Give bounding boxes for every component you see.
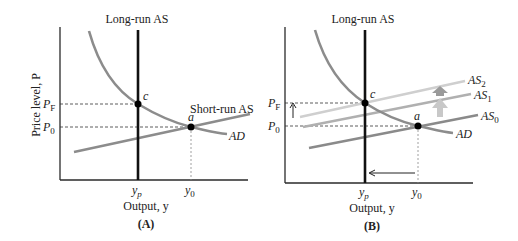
as0-label: AS0 [480, 109, 499, 125]
point-a [415, 123, 422, 130]
y0-tick-label: y0 [411, 185, 422, 201]
as-ad-diagram: Long-run AS c a Short-run AS AD PF P0 yp… [0, 0, 518, 241]
point-c-label: c [143, 89, 149, 103]
point-a [188, 124, 195, 131]
ad-curve [89, 31, 227, 134]
y0-tick-label: y0 [184, 183, 195, 199]
as2-label: AS2 [467, 73, 486, 89]
x-axis-title: Output, y [123, 199, 168, 213]
point-c [135, 101, 142, 108]
p0-tick-label: P0 [267, 119, 280, 135]
point-c-label: c [370, 87, 376, 101]
short-run-as-label: Short-run AS [190, 102, 254, 116]
y-axis-title: Price level, P [29, 73, 43, 137]
x-axis-title: Output, y [349, 201, 394, 215]
point-c [362, 100, 369, 107]
yp-tick-label: yp [131, 183, 142, 199]
panel-b: Long-run AS c a AS2 AS1 AS0 AD PF P0 yp … [267, 12, 499, 233]
panel-a: Long-run AS c a Short-run AS AD PF P0 yp… [29, 12, 254, 231]
panel-b-caption: (B) [364, 219, 380, 233]
pf-tick-label: PF [267, 96, 280, 112]
ad-curve [315, 30, 453, 133]
yp-tick-label: yp [358, 185, 369, 201]
long-run-as-label: Long-run AS [332, 12, 395, 26]
ad-label: AD [228, 129, 245, 143]
long-run-as-label: Long-run AS [106, 12, 169, 26]
as1-label: AS1 [473, 88, 492, 104]
p0-tick-label: P0 [42, 120, 55, 136]
ad-label: AD [455, 127, 472, 141]
pf-tick-label: PF [42, 97, 55, 113]
panel-a-caption: (A) [138, 217, 155, 231]
point-a-label: a [414, 109, 420, 123]
